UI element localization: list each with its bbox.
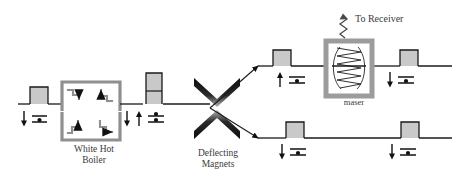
pulse-upper-left xyxy=(273,50,291,66)
maser-emission-wave-icon xyxy=(340,14,348,39)
state-symbol-lower-right xyxy=(389,144,416,160)
pulse-after-boiler xyxy=(146,73,162,104)
label-white-hot-boiler: White Hot Boiler xyxy=(52,144,136,166)
diagram-canvas: White Hot Boiler Deflecting Magnets mase… xyxy=(0,0,459,182)
deflecting-magnet-lower xyxy=(194,110,240,139)
deflecting-magnet-upper xyxy=(194,78,240,107)
pulse-lower-right xyxy=(401,122,419,138)
maser-cavity xyxy=(326,41,372,96)
label-maser: maser xyxy=(326,98,382,108)
pulse-source xyxy=(30,87,48,104)
state-symbol-source-input xyxy=(21,111,47,127)
pulse-upper-right xyxy=(400,50,418,66)
state-symbol-upper-into-maser xyxy=(277,72,305,87)
label-to-receiver: To Receiver xyxy=(355,13,437,25)
beam-split-upper xyxy=(210,66,258,108)
state-symbol-after-boiler xyxy=(124,111,164,127)
pulse-lower-left xyxy=(286,122,304,138)
white-hot-boiler xyxy=(62,82,120,140)
state-symbol-upper-after-maser xyxy=(387,72,414,88)
state-symbol-lower-left xyxy=(279,144,306,160)
label-deflecting-magnets: Deflecting Magnets xyxy=(182,148,254,170)
